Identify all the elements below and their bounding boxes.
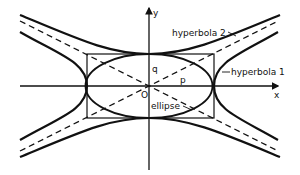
origin-label: O — [141, 90, 148, 100]
q-label: q — [152, 64, 158, 74]
hyperbola-2-label: hyperbola 2 — [172, 28, 226, 38]
y-axis-label: y — [153, 8, 159, 18]
ellipse-label: ellipse — [151, 101, 180, 111]
hyperbola-1-label: hyperbola 1 — [231, 67, 285, 77]
p-label: p — [180, 75, 186, 85]
conic-diagram: y x O q p hyperbola 2 hyperbola 1 ellips… — [0, 0, 300, 175]
x-axis-label: x — [274, 90, 280, 100]
hyperbola-2-bottom — [20, 118, 280, 157]
hyperbola-2 — [20, 15, 280, 54]
